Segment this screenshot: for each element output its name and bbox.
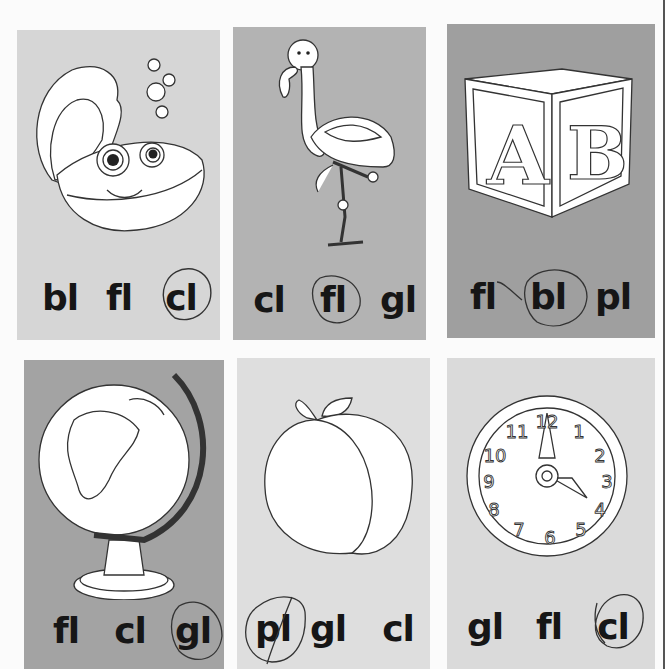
card-block: A B fl bl pl bbox=[447, 24, 655, 338]
clock-numeral: 2 bbox=[594, 445, 605, 466]
choice-fl[interactable]: fl bbox=[91, 273, 147, 323]
answer-choices: cl fl gl bbox=[233, 275, 426, 325]
choice-fl-circled[interactable]: fl bbox=[305, 275, 361, 325]
clock-numeral: 7 bbox=[513, 519, 524, 540]
clock-numeral: 12 bbox=[536, 411, 559, 432]
choice-gl[interactable]: gl bbox=[370, 275, 426, 325]
flamingo-picture bbox=[233, 27, 426, 257]
answer-choices: fl cl gl bbox=[24, 606, 224, 656]
clock-numeral: 9 bbox=[483, 471, 494, 492]
clock-numeral: 4 bbox=[594, 499, 605, 520]
choice-cl[interactable]: cl bbox=[370, 604, 426, 654]
card-clock: 12 1 2 3 4 5 6 7 8 9 10 11 gl fl cl bbox=[447, 358, 655, 669]
choice-cl-circled[interactable]: cl bbox=[585, 602, 641, 652]
choice-fl[interactable]: fl bbox=[455, 272, 511, 322]
choice-pl[interactable]: pl bbox=[585, 272, 641, 322]
clock-numeral: 6 bbox=[544, 527, 555, 548]
answer-choices: fl bl pl bbox=[447, 272, 655, 322]
choice-fl[interactable]: fl bbox=[521, 602, 577, 652]
choice-bl-circled[interactable]: bl bbox=[520, 272, 576, 322]
choice-gl[interactable]: gl bbox=[457, 602, 513, 652]
clock-numeral: 10 bbox=[484, 445, 507, 466]
clock-picture: 12 1 2 3 4 5 6 7 8 9 10 11 bbox=[447, 358, 655, 588]
choice-bl[interactable]: bl bbox=[32, 273, 88, 323]
block-letter-b: B bbox=[567, 111, 628, 196]
clam-picture bbox=[17, 30, 220, 260]
clock-numeral: 11 bbox=[506, 421, 529, 442]
card-globe: fl cl gl bbox=[24, 360, 224, 669]
choice-cl-circled[interactable]: cl bbox=[153, 273, 209, 323]
answer-choices: bl fl cl bbox=[17, 273, 220, 323]
clock-numeral: 5 bbox=[575, 519, 586, 540]
choice-fl[interactable]: fl bbox=[38, 606, 94, 656]
choice-gl-circled[interactable]: gl bbox=[165, 606, 221, 656]
plum-picture bbox=[237, 358, 430, 588]
globe-picture bbox=[24, 360, 224, 600]
clock-numeral: 8 bbox=[488, 499, 499, 520]
answer-choices: gl fl cl bbox=[447, 602, 655, 652]
answer-choices: pl gl cl bbox=[237, 604, 430, 654]
choice-cl[interactable]: cl bbox=[241, 275, 297, 325]
choice-cl[interactable]: cl bbox=[102, 606, 158, 656]
choice-pl-circled[interactable]: pl bbox=[245, 604, 301, 654]
card-clam: bl fl cl bbox=[17, 30, 220, 340]
block-picture: A B bbox=[447, 24, 655, 254]
card-plum: pl gl cl bbox=[237, 358, 430, 669]
block-letter-a: A bbox=[486, 109, 550, 203]
card-flamingo: cl fl gl bbox=[233, 27, 426, 340]
clock-numeral: 1 bbox=[573, 421, 584, 442]
choice-gl[interactable]: gl bbox=[300, 604, 356, 654]
clock-numeral: 3 bbox=[601, 471, 612, 492]
